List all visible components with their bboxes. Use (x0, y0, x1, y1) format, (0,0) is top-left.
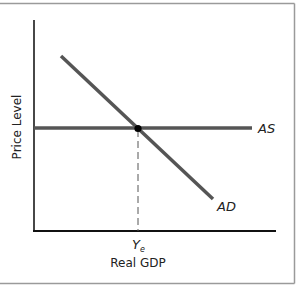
x-axis-label: Real GDP (110, 256, 165, 270)
equilibrium-point (134, 125, 141, 132)
chart-svg: AS AD Y e Real GDP Price Level (0, 0, 302, 288)
y-axis-label: Price Level (10, 95, 24, 160)
chart-frame: AS AD Y e Real GDP Price Level (0, 0, 302, 288)
ad-curve-label: AD (216, 199, 236, 214)
as-curve-label: AS (257, 121, 275, 136)
ye-subscript: e (140, 245, 145, 254)
